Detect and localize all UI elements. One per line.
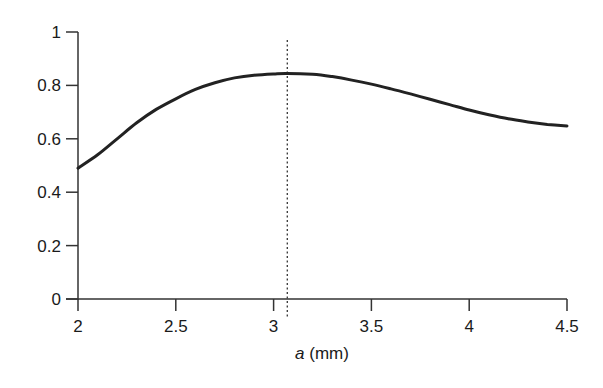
x-tick-label: 2: [73, 317, 82, 336]
y-axis-ticks: 00.20.40.60.81: [37, 23, 78, 309]
x-tick-label: 2.5: [164, 317, 188, 336]
data-curve: [78, 73, 567, 168]
x-axis-title: a (mm): [295, 344, 349, 363]
y-tick-label: 0.4: [37, 183, 61, 202]
y-tick-label: 0.8: [37, 76, 61, 95]
y-tick-label: 0: [52, 290, 61, 309]
line-chart: 00.20.40.60.81 22.533.544.5 a (mm): [0, 0, 603, 388]
x-tick-label: 4: [464, 317, 473, 336]
axes: [66, 32, 567, 300]
x-tick-label: 3.5: [360, 317, 384, 336]
x-tick-label: 4.5: [555, 317, 579, 336]
y-tick-label: 0.6: [37, 130, 61, 149]
x-tick-label: 3: [269, 317, 278, 336]
x-axis-title-unit: (mm): [305, 344, 349, 363]
y-tick-label: 1: [52, 23, 61, 42]
y-tick-label: 0.2: [37, 237, 61, 256]
x-axis-title-variable: a: [295, 344, 304, 363]
x-axis-ticks: 22.533.544.5: [73, 299, 579, 336]
